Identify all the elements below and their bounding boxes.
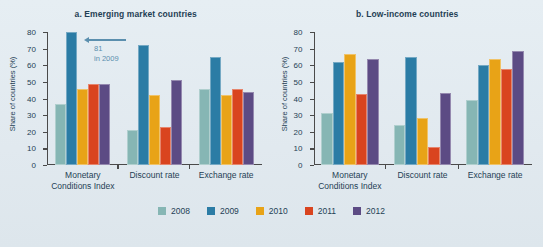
x-axis-label-line1: Discount rate xyxy=(119,170,191,181)
bar-group-discount-rate xyxy=(386,32,459,165)
bar-2008-monetary-conditions-index[interactable] xyxy=(55,104,66,166)
bar-2012-discount-rate[interactable] xyxy=(440,93,452,165)
bar-2012-exchange-rate[interactable] xyxy=(243,92,254,165)
y-tick-label-30: 30 xyxy=(27,111,36,120)
bar-2010-discount-rate[interactable] xyxy=(417,118,429,165)
legend-label-2010: 2010 xyxy=(269,206,288,216)
y-tick-label-40: 40 xyxy=(27,94,36,103)
bar-2011-exchange-rate[interactable] xyxy=(501,69,513,165)
y-tick-label-80: 80 xyxy=(27,28,36,37)
legend-label-2011: 2011 xyxy=(318,206,336,216)
bar-2011-monetary-conditions-index[interactable] xyxy=(356,94,368,165)
y-tick-label-60: 60 xyxy=(27,61,36,70)
y-axis-label-a: Share of countries (%) xyxy=(8,0,17,44)
bar-group-exchange-rate xyxy=(190,32,262,165)
x-axis-label-line1: Monetary xyxy=(47,170,119,181)
y-axis-label-a-text: Share of countries (%) xyxy=(8,44,17,144)
y-tick-label-70: 70 xyxy=(27,44,36,53)
bar-2008-discount-rate[interactable] xyxy=(394,125,406,165)
legend-item-2010[interactable]: 2010 xyxy=(256,206,288,216)
legend-swatch-2009 xyxy=(207,207,215,215)
bar-2009-exchange-rate[interactable] xyxy=(210,57,221,165)
bar-2010-exchange-rate[interactable] xyxy=(489,59,501,165)
bar-2008-exchange-rate[interactable] xyxy=(199,89,210,165)
bar-2008-exchange-rate[interactable] xyxy=(466,100,478,165)
panel-low-income: b. Low-income countries Share of countri… xyxy=(272,0,543,205)
x-axis-label-line2: Conditions Index xyxy=(47,181,119,192)
bar-2009-discount-rate[interactable] xyxy=(138,45,149,165)
y-tick-label-0: 0 xyxy=(32,161,36,170)
y-tick-label-40: 40 xyxy=(294,94,303,103)
bar-groups-b xyxy=(314,32,532,165)
y-axis-label-b: Share of countries (%) xyxy=(280,0,289,44)
bar-2011-exchange-rate[interactable] xyxy=(232,89,243,165)
bar-2009-discount-rate[interactable] xyxy=(405,57,417,165)
x-axis-label: MonetaryConditions Index xyxy=(314,170,387,192)
bar-2010-exchange-rate[interactable] xyxy=(221,95,232,165)
panel-emerging-market: a. Emerging market countries Share of co… xyxy=(0,0,272,205)
y-tick-label-20: 20 xyxy=(294,127,303,136)
x-axis-label-line2: Conditions Index xyxy=(314,181,387,192)
y-tick-0: 0 xyxy=(310,165,314,166)
plot-area-a: 80706050403020100 xyxy=(47,32,262,165)
y-tick-label-30: 30 xyxy=(294,111,303,120)
bar-group-discount-rate xyxy=(119,32,191,165)
x-axis-group-separator xyxy=(385,165,386,169)
x-axis-label: MonetaryConditions Index xyxy=(47,170,119,192)
bar-2010-discount-rate[interactable] xyxy=(149,95,160,165)
bar-2009-monetary-conditions-index[interactable] xyxy=(333,62,345,165)
y-tick-label-60: 60 xyxy=(294,61,303,70)
bar-group-monetary-conditions-index xyxy=(314,32,387,165)
panel-title-b: b. Low-income countries xyxy=(272,9,543,19)
panels-row: a. Emerging market countries Share of co… xyxy=(0,0,543,205)
y-tick-label-0: 0 xyxy=(298,161,302,170)
bar-groups-a xyxy=(47,32,262,165)
plot-area-b: 80706050403020100 xyxy=(314,32,532,165)
bar-2011-discount-rate[interactable] xyxy=(160,127,171,165)
x-axis-label: Discount rate xyxy=(386,170,459,192)
y-tick-label-10: 10 xyxy=(294,144,303,153)
legend-swatch-2008 xyxy=(158,207,166,215)
y-tick-label-20: 20 xyxy=(27,127,36,136)
legend-label-2009: 2009 xyxy=(220,206,239,216)
x-axis-group-separator xyxy=(189,165,190,169)
bar-2010-monetary-conditions-index[interactable] xyxy=(77,89,88,165)
figure-container: a. Emerging market countries Share of co… xyxy=(0,0,543,247)
bar-2012-exchange-rate[interactable] xyxy=(512,51,524,165)
y-tick-label-70: 70 xyxy=(294,44,303,53)
bar-2010-monetary-conditions-index[interactable] xyxy=(344,54,356,165)
legend-label-2008: 2008 xyxy=(171,206,190,216)
bar-group-exchange-rate xyxy=(459,32,532,165)
x-axis-label: Discount rate xyxy=(119,170,191,192)
legend-label-2012: 2012 xyxy=(366,206,385,216)
bar-2012-discount-rate[interactable] xyxy=(171,80,182,165)
legend-item-2011[interactable]: 2011 xyxy=(305,206,336,216)
y-tick-label-50: 50 xyxy=(27,77,36,86)
bar-2008-monetary-conditions-index[interactable] xyxy=(321,113,333,165)
legend-item-2009[interactable]: 2009 xyxy=(207,206,239,216)
x-axis-labels-a: MonetaryConditions IndexDiscount rateExc… xyxy=(47,170,262,192)
x-axis-labels-b: MonetaryConditions IndexDiscount rateExc… xyxy=(314,170,532,192)
legend-swatch-2012 xyxy=(353,207,361,215)
y-tick-label-10: 10 xyxy=(27,144,36,153)
legend-item-2012[interactable]: 2012 xyxy=(353,206,385,216)
y-tick-label-80: 80 xyxy=(294,28,303,37)
panel-title-a: a. Emerging market countries xyxy=(0,9,272,19)
bar-2009-exchange-rate[interactable] xyxy=(478,65,490,165)
x-axis-group-separator xyxy=(458,165,459,169)
x-axis-label: Exchange rate xyxy=(459,170,532,192)
x-axis-label-line1: Exchange rate xyxy=(459,170,532,181)
bar-2009-monetary-conditions-index[interactable] xyxy=(66,32,77,165)
x-axis-label-line1: Discount rate xyxy=(386,170,459,181)
x-axis-label-line1: Exchange rate xyxy=(190,170,262,181)
bar-2012-monetary-conditions-index[interactable] xyxy=(99,84,110,165)
y-tick-label-50: 50 xyxy=(294,77,303,86)
chart-legend: 20082009201020112012 xyxy=(0,206,543,216)
bar-2011-monetary-conditions-index[interactable] xyxy=(88,84,99,165)
bar-2011-discount-rate[interactable] xyxy=(428,147,440,165)
bar-2008-discount-rate[interactable] xyxy=(127,130,138,165)
x-axis-label: Exchange rate xyxy=(190,170,262,192)
bar-group-monetary-conditions-index xyxy=(47,32,119,165)
legend-item-2008[interactable]: 2008 xyxy=(158,206,190,216)
bar-2012-monetary-conditions-index[interactable] xyxy=(367,59,379,165)
